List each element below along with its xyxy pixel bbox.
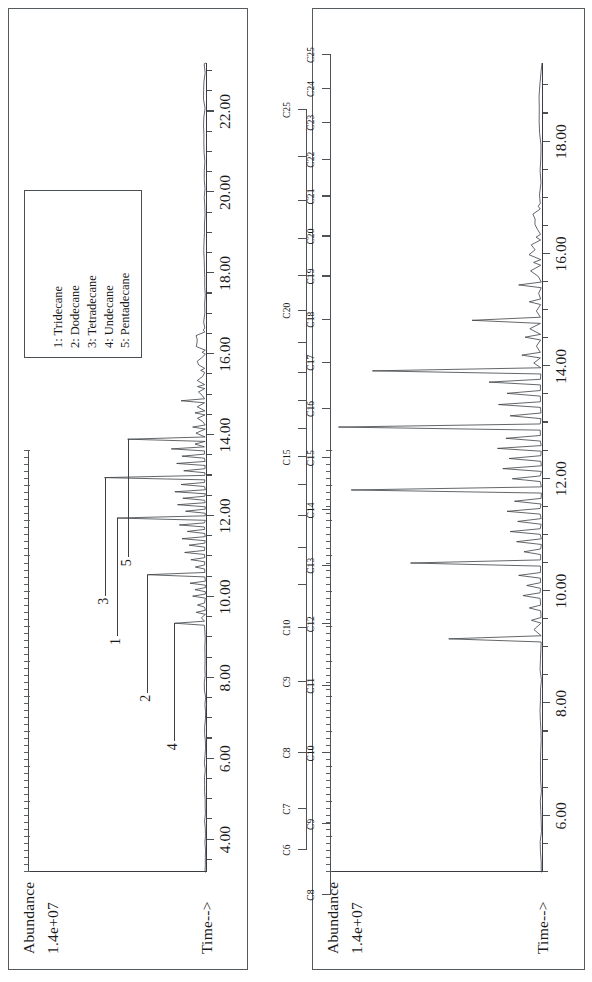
right-chromatogram-plot: Abundance 1.4e+07 Time--> 6.008.0010.001… [314,18,579,968]
left-chromatogram-plot: Abundance 1.4e+07 Time--> 1: Tridecane2:… [10,18,242,968]
carbon-ruler-label-C25: C25 [282,102,292,118]
carbon-ruler-label-C13: C13 [306,558,316,574]
carbon-ruler-label-C23: C23 [306,115,316,131]
carbon-ruler-label-C19: C19 [306,268,316,284]
carbon-ruler-tick [322,509,330,510]
carbon-ruler-tick [322,685,330,686]
carbon-ruler-label-C24: C24 [306,81,316,97]
carbon-ruler-tick [322,823,330,824]
left-chromatogram-trace [10,18,242,968]
carbon-ruler-label-C10: C10 [306,745,316,761]
carbon-ruler-tick [322,88,330,89]
carbon-ruler-spine [330,55,331,895]
carbon-ruler-tick [322,752,330,753]
panel_b-trace-path [338,63,542,872]
carbon-ruler-label-C10: C10 [282,620,292,636]
carbon-ruler-tick [322,159,330,160]
carbon-ruler-label-C25: C25 [306,47,316,63]
carbon-ruler-label-C17: C17 [306,355,316,371]
carbon-ruler-tick [322,122,330,123]
carbon-ruler-tick [322,457,330,458]
carbon-number-ruler-right: C8C9C10C11C12C13C14C15C16C17C18C19C20C21… [300,45,334,905]
carbon-ruler-label-C7: C7 [282,803,292,814]
carbon-ruler-label-C16: C16 [306,401,316,417]
carbon-ruler-label-C9: C9 [282,676,292,687]
carbon-ruler-label-C15: C15 [306,450,316,466]
right-chromatogram-trace [314,18,579,968]
carbon-ruler-tick [322,195,330,196]
carbon-ruler-label-C18: C18 [306,312,316,328]
carbon-ruler-label-C20: C20 [282,303,292,319]
carbon-ruler-label-C6: C6 [282,844,292,855]
carbon-ruler-tick [322,623,330,624]
carbon-ruler-tick [322,275,330,276]
carbon-ruler-label-C9: C9 [306,819,316,830]
panel_a-trace-path [105,63,206,872]
carbon-ruler-label-C21: C21 [306,188,316,204]
carbon-ruler-label-C12: C12 [306,616,316,632]
carbon-ruler-tick [322,362,330,363]
carbon-ruler-tick [322,565,330,566]
carbon-ruler-label-C14: C14 [306,502,316,518]
carbon-ruler-tick [322,319,330,320]
carbon-ruler-label-C11: C11 [306,678,316,694]
carbon-ruler-label-C8: C8 [282,747,292,758]
carbon-ruler-tick [322,408,330,409]
carbon-ruler-tick [322,894,330,895]
carbon-ruler-label-C8: C8 [306,889,316,900]
carbon-ruler-label-C15: C15 [282,449,292,465]
carbon-ruler-label-C22: C22 [306,152,316,168]
carbon-ruler-label-C20: C20 [306,228,316,244]
carbon-ruler-tick [322,54,330,55]
carbon-ruler-tick [322,235,330,236]
